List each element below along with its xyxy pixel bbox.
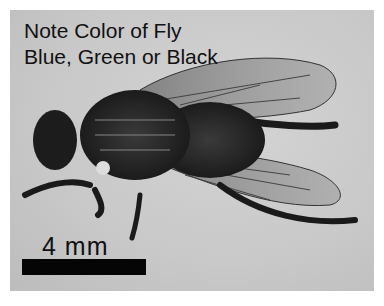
scale-bar <box>22 259 146 275</box>
scale-label: 4 mm <box>42 232 109 261</box>
fly-photograph: Note Color of Fly Blue, Green or Black 4… <box>10 10 374 291</box>
caption-line-1: Note Color of Fly <box>24 19 182 42</box>
caption-line-2: Blue, Green or Black <box>24 45 218 68</box>
caption: Note Color of Fly Blue, Green or Black <box>24 18 218 70</box>
